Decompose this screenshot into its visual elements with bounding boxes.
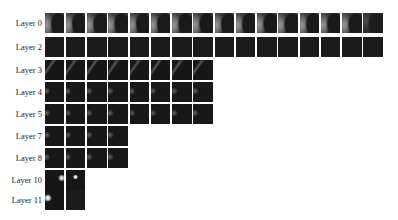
attention-map-tile [108, 82, 128, 102]
attention-map-tile [108, 104, 128, 124]
attention-map-tile [45, 60, 65, 80]
attention-map-tile [87, 148, 107, 168]
attention-map-tile [45, 126, 65, 146]
layer-row: Layer 10 [0, 170, 398, 190]
layer-row: Layer 5 [0, 104, 398, 124]
layer-row: Layer 4 [0, 82, 398, 102]
attention-map-tile [66, 148, 86, 168]
attention-map-tile [108, 60, 128, 80]
layer-row: Layer 3 [0, 60, 398, 80]
attention-map-tile [151, 104, 171, 124]
attention-map-tile [108, 148, 128, 168]
attention-map-tile [257, 37, 277, 57]
attention-map-tile [87, 82, 107, 102]
attention-map-tile [87, 37, 107, 57]
attention-map-tile [300, 37, 320, 57]
attention-map-tile [151, 60, 171, 80]
attention-map-tile [257, 13, 277, 33]
attention-map-tile [278, 13, 298, 33]
layer-label: Layer 10 [0, 170, 42, 190]
attention-map-tile [108, 37, 128, 57]
attention-map-tile [45, 190, 65, 210]
attention-map-tile [45, 170, 65, 190]
attention-map-tile [151, 82, 171, 102]
attention-map-tile [45, 13, 65, 33]
attention-map-tile [172, 13, 192, 33]
layer-label: Layer 0 [0, 13, 42, 33]
attention-map-tile [45, 37, 65, 57]
attention-map-tile [108, 13, 128, 33]
layer-label: Layer 11 [0, 190, 42, 210]
attention-map-tile [151, 13, 171, 33]
attention-map-tile [363, 37, 383, 57]
attention-map-grid: Layer 0Layer 2Layer 3Layer 4Layer 5Layer… [0, 0, 398, 220]
attention-map-tile [66, 104, 86, 124]
attention-map-tile [321, 13, 341, 33]
attention-map-tile [342, 13, 362, 33]
attention-map-tile [321, 37, 341, 57]
layer-row: Layer 8 [0, 148, 398, 168]
attention-map-tile [172, 37, 192, 57]
attention-map-tile [193, 13, 213, 33]
attention-map-tile [130, 37, 150, 57]
attention-map-tile [193, 104, 213, 124]
attention-map-tile [108, 126, 128, 146]
layer-label: Layer 8 [0, 148, 42, 168]
layer-row: Layer 0 [0, 13, 398, 33]
attention-map-tile [45, 148, 65, 168]
attention-map-tile [66, 60, 86, 80]
attention-map-tile [87, 104, 107, 124]
attention-map-tile [193, 60, 213, 80]
attention-map-tile [87, 126, 107, 146]
layer-label: Layer 2 [0, 37, 42, 57]
attention-map-tile [151, 37, 171, 57]
attention-map-tile [172, 60, 192, 80]
layer-label: Layer 3 [0, 60, 42, 80]
attention-map-tile [363, 13, 383, 33]
attention-map-tile [342, 37, 362, 57]
attention-map-tile [193, 37, 213, 57]
layer-row: Layer 2 [0, 37, 398, 57]
layer-row: Layer 7 [0, 126, 398, 146]
attention-map-tile [172, 104, 192, 124]
attention-map-tile [300, 13, 320, 33]
attention-map-tile [45, 82, 65, 102]
attention-map-tile [66, 170, 86, 190]
attention-map-tile [236, 37, 256, 57]
attention-map-tile [45, 104, 65, 124]
attention-map-tile [215, 13, 235, 33]
attention-map-tile [130, 60, 150, 80]
attention-map-tile [66, 190, 86, 210]
attention-map-tile [66, 126, 86, 146]
attention-map-tile [130, 82, 150, 102]
attention-map-tile [66, 13, 86, 33]
attention-map-tile [215, 37, 235, 57]
attention-map-tile [87, 60, 107, 80]
layer-label: Layer 7 [0, 126, 42, 146]
attention-map-tile [172, 82, 192, 102]
attention-map-tile [236, 13, 256, 33]
attention-map-tile [193, 82, 213, 102]
layer-label: Layer 5 [0, 104, 42, 124]
attention-map-tile [130, 104, 150, 124]
attention-map-tile [66, 37, 86, 57]
attention-map-tile [278, 37, 298, 57]
layer-row: Layer 11 [0, 190, 398, 210]
attention-map-tile [87, 13, 107, 33]
layer-label: Layer 4 [0, 82, 42, 102]
attention-map-tile [130, 13, 150, 33]
attention-map-tile [66, 82, 86, 102]
